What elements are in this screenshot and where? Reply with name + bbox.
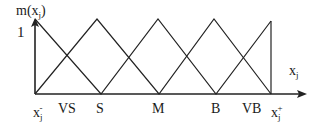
set-label-s: S: [96, 102, 104, 116]
set-label-b: B: [211, 102, 220, 116]
x-max-label-sub: j: [278, 112, 281, 122]
membership-zigzag-b: [35, 19, 271, 94]
y-axis-label-close: ): [41, 3, 46, 18]
x-axis-label-sub: j: [296, 70, 299, 80]
x-max-label: xj+: [271, 101, 283, 124]
x-max-label-base: x: [271, 105, 278, 120]
x-min-label-sup: -: [40, 103, 43, 113]
set-label-m: M: [152, 102, 164, 116]
y-axis-label-base: m(x: [16, 3, 39, 18]
x-min-label-base: x: [33, 105, 40, 120]
x-axis-label: xj: [289, 64, 299, 82]
y-axis-label: m(xj): [16, 4, 46, 22]
x-min-label: xj-: [33, 101, 43, 124]
set-label-vb: VB: [242, 102, 261, 116]
x-axis-label-base: x: [289, 63, 296, 78]
x-min-label-sub: j: [40, 112, 43, 122]
x-max-label-sup: +: [278, 103, 283, 113]
set-label-vs: VS: [58, 102, 76, 116]
membership-zigzag-a: [35, 19, 271, 94]
membership-function-diagram: m(xj) 1 xj xj- VS S M B VB xj+: [0, 0, 322, 124]
y-tick-one: 1: [17, 25, 25, 39]
